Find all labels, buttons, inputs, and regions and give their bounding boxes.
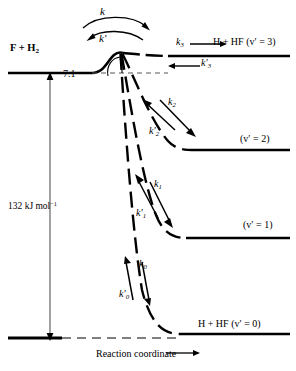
rate-constant-k-prime-label: k′ bbox=[99, 32, 106, 44]
k3-reverse-arrowhead bbox=[168, 63, 175, 69]
rate-constant-k0-label: k0 bbox=[139, 258, 147, 270]
rate-constant-k1-label: k1 bbox=[154, 178, 162, 190]
product-label-v1: (v′ = 1) bbox=[243, 219, 273, 230]
k2-forward-arrow-line bbox=[160, 100, 192, 133]
barrier-height-label: 7.1 bbox=[63, 68, 76, 79]
rate-constant-k2-prime-label: k′2 bbox=[149, 125, 159, 137]
k-reverse-arrowhead bbox=[87, 33, 96, 41]
product-label-v3: H + HF (v′ = 3) bbox=[213, 36, 276, 47]
reactant-label: F + H2 bbox=[10, 42, 39, 55]
overall-energy-label: 132 kJ mol−1 bbox=[8, 200, 57, 211]
reaction-coordinate-label: Reaction coordinate bbox=[96, 348, 176, 359]
rate-constant-k3-label: k3 bbox=[176, 36, 184, 48]
descent-curve-v2 bbox=[123, 54, 197, 150]
k0-reverse-arrowhead bbox=[124, 256, 131, 264]
k1-reverse-arrowhead bbox=[135, 174, 144, 184]
rate-constant-k3-prime-label: k′3 bbox=[201, 57, 211, 69]
k0-forward-arrowhead bbox=[144, 298, 151, 306]
product-label-v0: H + HF (v′ = 0) bbox=[198, 318, 261, 329]
product-label-v2: (v′ = 2) bbox=[240, 133, 270, 144]
rate-constant-k-label: k bbox=[100, 5, 105, 17]
descent-curve-v3 bbox=[123, 53, 168, 56]
energy-diagram-canvas bbox=[0, 0, 296, 371]
rate-constant-k1-prime-label: k′1 bbox=[136, 207, 146, 219]
k1-forward-arrowhead bbox=[164, 218, 173, 228]
rate-constant-k0-prime-label: k′0 bbox=[119, 288, 129, 300]
k-forward-arc bbox=[83, 17, 147, 28]
k-reverse-arc bbox=[90, 31, 143, 40]
reaction-coordinate-arrowhead bbox=[193, 350, 200, 356]
rate-constant-k2-label: k2 bbox=[168, 96, 176, 108]
